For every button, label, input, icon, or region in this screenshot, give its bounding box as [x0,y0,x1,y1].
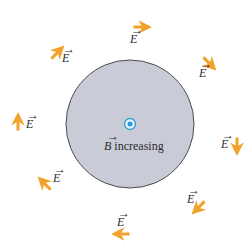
e-vector-bottom-left: E→ [41,162,66,190]
vector-accent-icon: → [118,206,130,220]
e-vector-bottom: E→ [116,206,130,234]
e-vector-top: E→ [129,23,147,46]
e-vector-left: E→ [18,108,39,131]
vector-accent-icon: → [200,57,212,71]
vector-accent-icon: → [131,23,143,37]
e-vector-top-right: E→ [198,57,213,80]
vector-accent-icon: → [54,162,66,176]
diagram-canvas: B increasing → E→E→E→E→E→E→E→E→ [0,0,252,244]
b-field-out-of-page-icon [125,119,136,130]
arrow-icon [51,49,60,58]
e-vector-right: E→ [220,128,237,151]
vector-accent-icon: → [222,128,234,142]
arrow-icon [195,201,204,210]
e-vector-top-left: E→ [51,42,75,65]
vector-accent-icon: → [27,108,39,122]
b-vector-arrow-accent: → [107,129,119,143]
b-increasing-text: increasing [111,139,163,153]
vector-accent-icon: → [63,42,75,56]
e-vector-bottom-right: E→ [186,183,205,211]
arrow-icon [41,180,50,189]
vector-accent-icon: → [188,183,200,197]
induced-electric-field-diagram: B increasing → E→E→E→E→E→E→E→E→ [0,0,252,244]
